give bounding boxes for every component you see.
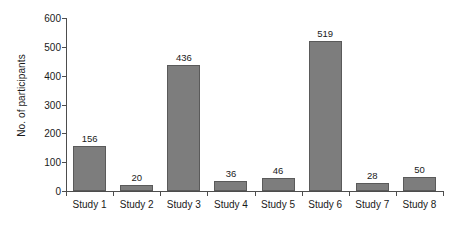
y-axis-tick-mark <box>62 47 66 48</box>
bar-value-label: 20 <box>131 172 142 183</box>
bar-value-label: 50 <box>414 164 425 175</box>
bar <box>403 177 436 191</box>
bar <box>214 181 247 191</box>
y-axis-tick-label: 600 <box>44 13 61 24</box>
x-axis-tick-mark <box>255 191 256 196</box>
y-axis-title-text: No. of participants <box>16 54 27 137</box>
bar <box>262 178 295 191</box>
bar-value-label: 436 <box>176 52 192 63</box>
bar-value-label: 28 <box>367 170 378 181</box>
bar <box>167 65 200 191</box>
bar-value-label: 156 <box>82 133 98 144</box>
y-axis-title: No. of participants <box>10 0 32 191</box>
x-axis-tick-mark <box>302 191 303 196</box>
plot-area: 0100200300400500600 1562043636465192850 … <box>66 18 443 191</box>
x-axis-category-label: Study 4 <box>214 199 248 210</box>
x-axis-category-label: Study 8 <box>402 199 436 210</box>
y-axis-tick-mark <box>62 105 66 106</box>
y-axis-tick-label: 300 <box>44 99 61 110</box>
bar <box>356 183 389 191</box>
y-axis-tick-mark <box>62 18 66 19</box>
x-axis-category-label: Study 7 <box>355 199 389 210</box>
y-axis-tick-mark <box>62 76 66 77</box>
x-axis-category-label: Study 5 <box>261 199 295 210</box>
bar <box>309 41 342 191</box>
x-axis-tick-mark <box>207 191 208 196</box>
bar-value-label: 46 <box>273 165 284 176</box>
y-axis-tick-label: 500 <box>44 41 61 52</box>
bar <box>73 146 106 191</box>
bar-chart: No. of participants 0100200300400500600 … <box>0 0 455 228</box>
y-axis-tick-label: 100 <box>44 157 61 168</box>
y-axis-tick-label: 400 <box>44 70 61 81</box>
x-axis-category-label: Study 2 <box>120 199 154 210</box>
y-axis-tick-mark <box>62 162 66 163</box>
bar-value-label: 519 <box>317 28 333 39</box>
x-axis-category-label: Study 1 <box>73 199 107 210</box>
x-axis-category-label: Study 3 <box>167 199 201 210</box>
x-axis-tick-mark <box>396 191 397 196</box>
y-axis-tick-label: 200 <box>44 128 61 139</box>
x-axis-tick-mark <box>443 191 444 196</box>
x-axis-tick-mark <box>160 191 161 196</box>
y-axis-tick-mark <box>62 133 66 134</box>
bar <box>120 185 153 191</box>
x-axis-category-label: Study 6 <box>308 199 342 210</box>
x-axis-tick-mark <box>349 191 350 196</box>
bar-value-label: 36 <box>226 168 237 179</box>
y-axis-tick-label: 0 <box>55 186 61 197</box>
x-axis-tick-mark <box>113 191 114 196</box>
x-axis-tick-mark <box>66 191 67 196</box>
y-axis-line <box>66 18 67 192</box>
